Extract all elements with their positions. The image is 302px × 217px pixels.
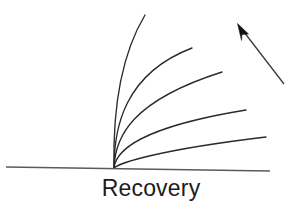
arrow-shaft [244,32,284,84]
curve-3 [114,72,222,168]
axis-caption-recovery: Recovery [0,176,302,200]
curve-group [114,15,266,168]
horizontal-axis-line [6,167,270,171]
arrow-head-icon [238,24,249,41]
direction-arrow [238,24,285,85]
recovery-curves-figure: Recovery [0,0,302,217]
